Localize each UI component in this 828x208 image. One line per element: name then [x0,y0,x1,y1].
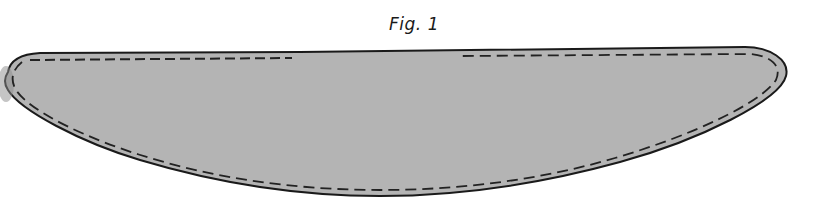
pattern-piece-shape [5,47,787,196]
pattern-piece-diagram [0,0,828,208]
